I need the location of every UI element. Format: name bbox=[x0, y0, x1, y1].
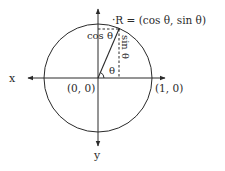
angle-arc bbox=[101, 73, 105, 79]
origin-label: (0, 0) bbox=[67, 82, 95, 94]
unit-circle-diagram: x y (0, 0) (1, 0) ·R = (cos θ, sin θ) co… bbox=[0, 0, 225, 171]
cos-label: cos θ bbox=[87, 30, 113, 41]
point-r-dot bbox=[118, 28, 120, 30]
point-r-label: ·R = (cos θ, sin θ) bbox=[112, 14, 206, 26]
y-axis-label: y bbox=[93, 149, 101, 162]
sin-label: sin θ bbox=[120, 35, 131, 59]
x-axis-label: x bbox=[9, 72, 16, 85]
angle-label: θ bbox=[109, 65, 115, 76]
unit-point-label: (1, 0) bbox=[155, 82, 183, 94]
